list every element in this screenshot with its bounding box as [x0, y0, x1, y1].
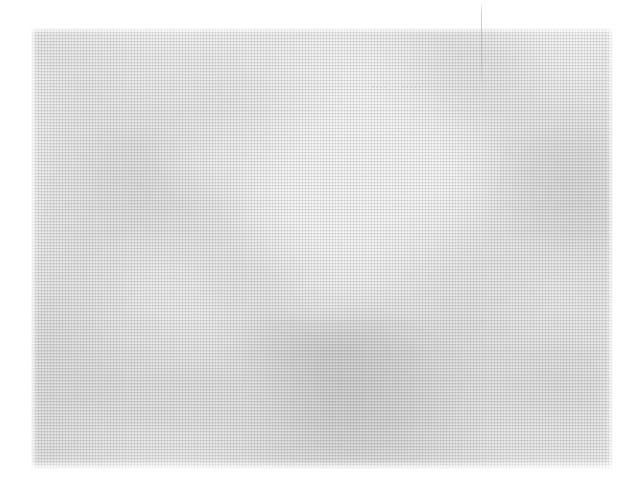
- halftone-screen-primary: [31, 28, 613, 469]
- diagonal-band-down-icon: [31, 28, 613, 469]
- scanned-print-area: [31, 28, 613, 469]
- lower-dark-mass: [31, 28, 613, 469]
- scan-canvas: .... .....: [0, 0, 640, 498]
- vertical-hairline-artifact: [481, 0, 482, 85]
- diagonal-band-up-icon: [31, 28, 613, 469]
- print-edge-fade: [31, 28, 613, 469]
- overall-fade-wash: [31, 28, 613, 469]
- scanline-texture: [31, 28, 613, 469]
- flank-dark-mass: [31, 28, 613, 469]
- halftone-screen-secondary: [31, 28, 613, 469]
- central-highlight: [31, 28, 613, 469]
